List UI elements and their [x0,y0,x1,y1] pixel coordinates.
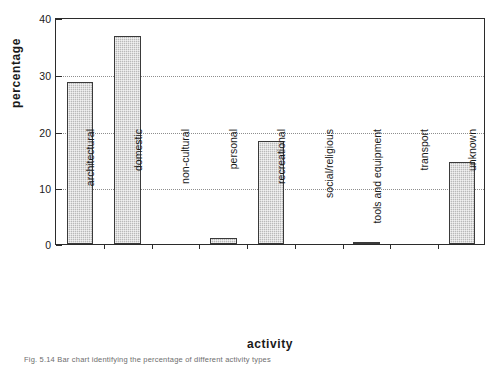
y-axis-title: percentage [9,13,23,133]
y-tick-label-30: 30 [39,70,51,82]
x-category-label-tools-and-equipment: tools and equipment [371,129,387,249]
x-category-label-non-cultural: non-cultural [179,129,195,249]
x-tick-mark-5 [295,244,296,249]
bar-chart-figure: percentage 0 10 20 30 40 architecturaldo… [0,0,497,365]
y-tick-10: 10 [56,189,62,190]
x-tick-mark-7 [390,244,391,249]
x-tick-mark-1 [104,244,105,249]
x-category-label-domestic: domestic [132,129,148,249]
x-category-label-architectural: architectural [84,129,100,249]
x-category-label-recreational: recreational [275,129,291,249]
x-category-label-transport: transport [418,129,434,249]
y-tick-label-20: 20 [39,127,51,139]
x-tick-mark-4 [247,244,248,249]
x-tick-mark-6 [343,244,344,249]
y-tick-label-10: 10 [39,183,51,195]
y-tick-label-40: 40 [39,13,51,25]
x-category-label-unknown: unknown [466,129,482,249]
y-tick-20: 20 [56,133,62,134]
x-tick-mark-2 [152,244,153,249]
y-tick-40: 40 [56,19,62,20]
y-tick-30: 30 [56,76,62,77]
x-category-label-social-religious: social/religious [323,129,339,249]
figure-caption: Fig. 5.14 Bar chart identifying the perc… [24,355,484,365]
x-tick-mark-8 [438,244,439,249]
x-tick-mark-3 [199,244,200,249]
y-tick-label-0: 0 [45,239,51,251]
x-category-label-personal: personal [227,129,243,249]
y-tick-0: 0 [56,245,62,246]
x-axis-title: activity [55,337,485,351]
